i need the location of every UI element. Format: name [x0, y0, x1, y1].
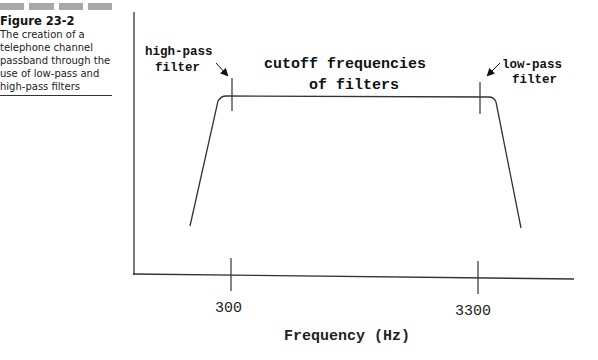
high-pass-arrow-icon: [216, 63, 227, 75]
x-tick-label-300: 300: [215, 300, 242, 317]
low-pass-label-line2: filter: [512, 73, 557, 87]
cutoff-label-line2: of filters: [309, 77, 399, 94]
x-tick-label-3300: 3300: [455, 303, 491, 320]
high-pass-label-line2: filter: [155, 61, 200, 75]
passband-curve: [190, 96, 521, 228]
x-axis: [133, 274, 574, 279]
passband-chart: high-pass filter cutoff frequencies of f…: [0, 0, 598, 360]
cutoff-label-line1: cutoff frequencies: [264, 56, 426, 73]
x-axis-label: Frequency (Hz): [284, 328, 410, 345]
low-pass-arrow-icon: [488, 63, 500, 75]
high-pass-label-line1: high-pass: [145, 45, 213, 59]
low-pass-label-line1: low-pass: [502, 58, 562, 72]
